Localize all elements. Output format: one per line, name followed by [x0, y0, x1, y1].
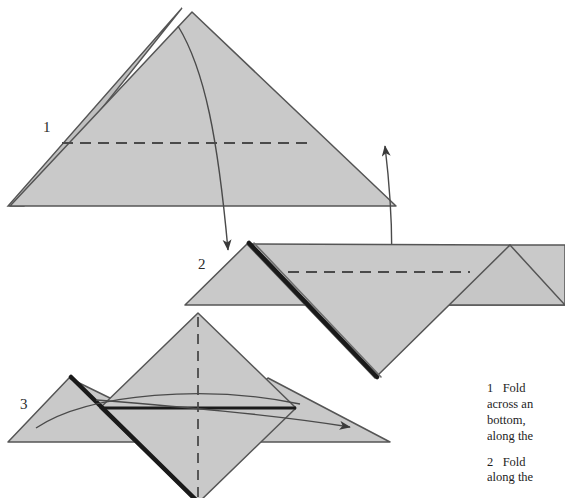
page-canvas: 1 2 3 1 Fold across an bottom, along the… [0, 0, 565, 498]
diagram-2-number-label: 2 [198, 257, 206, 272]
diagram-1-shape [8, 8, 396, 250]
caption-step-1: 1 Fold across an bottom, along the [487, 381, 565, 445]
diagram-2-main-body [247, 244, 510, 378]
diagram-3-number-label: 3 [20, 397, 28, 412]
diagram-3-shape [8, 313, 390, 498]
origami-figure [0, 0, 565, 498]
caption-column: 1 Fold across an bottom, along the 2 Fol… [487, 381, 565, 498]
diagram-1-number-label: 1 [43, 120, 51, 135]
diagram-1-main-triangle [10, 12, 396, 206]
caption-step-2: 2 Fold along the [487, 455, 565, 487]
